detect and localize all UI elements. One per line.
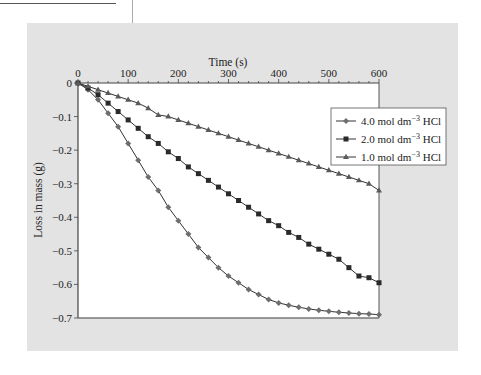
y-tick-label: −0.2 [52,144,72,156]
x-tick-label: 100 [120,67,137,79]
x-tick-label: 400 [270,67,287,79]
legend-label: 2.0 mol dm−3 HCl [361,132,441,145]
legend-label: 4.0 mol dm−3 HCl [361,114,441,127]
line-chart: 01002003004005006000−0.1−0.2−0.3−0.4−0.5… [0,0,481,375]
y-tick-label: 0 [67,77,73,89]
x-tick-label: 200 [170,67,187,79]
y-tick-label: −0.6 [52,278,72,290]
y-tick-label: −0.5 [52,245,72,257]
y-tick-label: −0.4 [52,211,72,223]
y-tick-label: −0.3 [52,178,72,190]
y-tick-label: −0.1 [52,111,72,123]
y-tick-label: −0.7 [52,312,72,324]
x-tick-label: 500 [321,67,338,79]
x-tick-label: 600 [371,67,388,79]
x-tick-label: 300 [220,67,237,79]
legend: 4.0 mol dm−3 HCl2.0 mol dm−3 HCl1.0 mol … [331,108,446,165]
x-tick-label: 0 [75,67,81,79]
x-axis-title: Time (s) [209,56,248,69]
y-axis-title: Loss in mass (g) [32,162,45,238]
legend-label: 1.0 mol dm−3 HCl [361,150,441,163]
